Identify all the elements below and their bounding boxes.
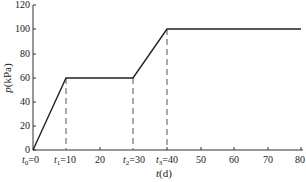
x-tick-label-t3: t3=40 [156, 154, 178, 167]
x-tick-label: 50 [196, 154, 206, 165]
y-tick-label: 120 [15, 0, 30, 10]
y-axis-title: p(kPa) [1, 63, 14, 94]
x-tick-label-t0: t0=0 [22, 154, 39, 167]
y-tick-label: 60 [20, 72, 30, 83]
x-tick-label-t2: t2=30 [123, 154, 145, 167]
y-tick-labels: 0 20 40 60 80 100 120 [15, 0, 30, 155]
x-tick-label: 60 [229, 154, 239, 165]
y-tick-label: 40 [20, 96, 30, 107]
guide-lines [66, 29, 167, 150]
x-axis-title: t(d) [156, 167, 172, 180]
y-tick-label: 80 [20, 48, 30, 59]
x-tick-labels: t0=0 t1=10 20 t2=30 t3=40 50 60 70 80 [22, 154, 305, 167]
y-tick-label: 20 [20, 120, 30, 131]
x-tick-label: 70 [263, 154, 273, 165]
y-tick-label: 100 [15, 23, 30, 34]
x-tick-label-t1: t1=10 [54, 154, 76, 167]
x-tick-label: 80 [295, 154, 305, 165]
chart: 0 20 40 60 80 100 120 t0=0 t1=10 20 t2=3… [0, 0, 306, 182]
x-tick-label: 20 [95, 154, 105, 165]
